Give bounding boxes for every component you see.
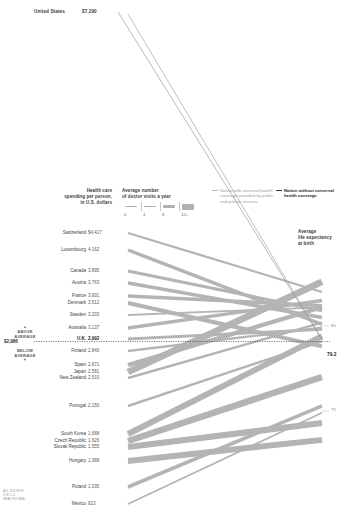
country-name: New Zealand [59,375,86,381]
country-row: France3,601 [22,293,112,299]
country-row: U.K.2,992 [22,336,112,342]
country-name: Slovak Republic [54,444,86,450]
country-row: Australia3,137 [22,325,112,331]
source-note: ALL SOURCE:O.E.C.D.HEALTH DATA [3,489,25,502]
axis-tick-75: 75 [331,407,336,412]
country-row: Spain2,671 [22,362,112,368]
country-row: Canada3,895 [22,268,112,274]
header-life-expectancy: Averagelife expectancyat birth [298,229,344,246]
country-spending-value: 3,512 [88,300,112,306]
country-spending-value: 1,688 [88,431,112,437]
country-spending-value: 1,388 [88,458,112,464]
thickness-swatch-0 [125,206,137,207]
country-spending-value: 2,992 [88,336,112,342]
country-spending-value: 823 [88,501,112,507]
legend-line-swatch-light [212,190,218,191]
country-spending-value: 1,035 [88,484,112,490]
thickness-swatch-8 [163,205,175,208]
country-spending-value: 3,763 [88,280,112,286]
thickness-divider [141,202,142,211]
country-row: Portugal2,150 [22,403,112,409]
country-name: Australia [68,325,86,331]
country-name: Switzerland [63,230,86,236]
country-row: Finland2,840 [22,348,112,354]
thickness-divider [179,202,180,211]
country-name: France [72,293,86,299]
country-name: Luxembourg [61,247,86,253]
header-visits: Average numberof doctor visits a year [122,188,202,200]
country-row: Slovak Republic1,555 [22,444,112,450]
thickness-swatch-4 [144,206,156,208]
country-spending-value: 3,601 [88,293,112,299]
thickness-swatch-12plus [182,204,194,210]
country-name: Canada [70,268,86,274]
country-row: Denmark3,512 [22,300,112,306]
slopegraph-infographic: United States $7,290 Health carespending… [0,0,348,520]
thickness-divider [160,202,161,211]
thickness-tick-label: 0 [124,212,126,217]
country-name: South Korea [61,431,86,437]
country-row: Austria3,763 [22,280,112,286]
slope-lines-group [118,12,322,504]
country-row: Mexico823 [22,501,112,507]
country-row: Luxembourg4,162 [22,247,112,253]
us-annotation-label: United States [34,9,65,15]
country-row: Switzerland$4,417 [22,230,112,236]
legend-with-universal-coverage: Nation with universal health coverage pr… [220,188,278,204]
legend-without-label: Nation without universal health coverage [284,188,334,198]
country-spending-value: 1,555 [88,444,112,450]
country-spending-value: 2,510 [88,375,112,381]
us-annotation-value: $7,290 [82,9,97,15]
country-name: Poland [72,484,86,490]
legend-without-universal-coverage: Nation without universal health coverage [284,188,342,199]
country-row: South Korea1,688 [22,431,112,437]
country-spending-value: 2,150 [88,403,112,409]
country-name: Mexico [72,501,86,507]
country-name: Austria [72,280,86,286]
country-row: Poland1,035 [22,484,112,490]
country-name: U.K. [77,336,86,342]
thickness-tick-label: 8 [162,212,164,217]
thickness-tick-label: 4 [143,212,145,217]
country-name: Hungary [69,458,86,464]
line-thickness-legend: 04812+ [122,202,198,211]
average-value: $2,986 [4,339,18,344]
country-spending-value: 2,840 [88,348,112,354]
country-spending-value: $4,417 [88,230,112,236]
country-spending-value: 3,137 [88,325,112,331]
thickness-tick-label: 12+ [181,212,188,217]
legend-line-swatch-dark [276,190,282,191]
axis-tick-80: 80 [331,323,336,328]
country-spending-value: 3,203 [88,312,112,318]
header-spending: Health carespending per person,in U.S. d… [56,188,112,205]
country-name: Sweden [70,312,86,318]
country-spending-value: 4,162 [88,247,112,253]
country-row: Sweden3,203 [22,312,112,318]
us-life-expectancy-value: 79.2 [327,352,336,357]
country-spending-value: 3,895 [88,268,112,274]
country-name: Spain [74,362,86,368]
country-row: New Zealand2,510 [22,375,112,381]
country-name: Denmark [68,300,86,306]
country-name: Finland [71,348,86,354]
country-name: Portugal [69,403,86,409]
legend-with-label: Nation with universal health coverage pr… [220,188,274,204]
slope-line [128,282,322,372]
country-spending-value: 2,671 [88,362,112,368]
country-row: Hungary1,388 [22,458,112,464]
